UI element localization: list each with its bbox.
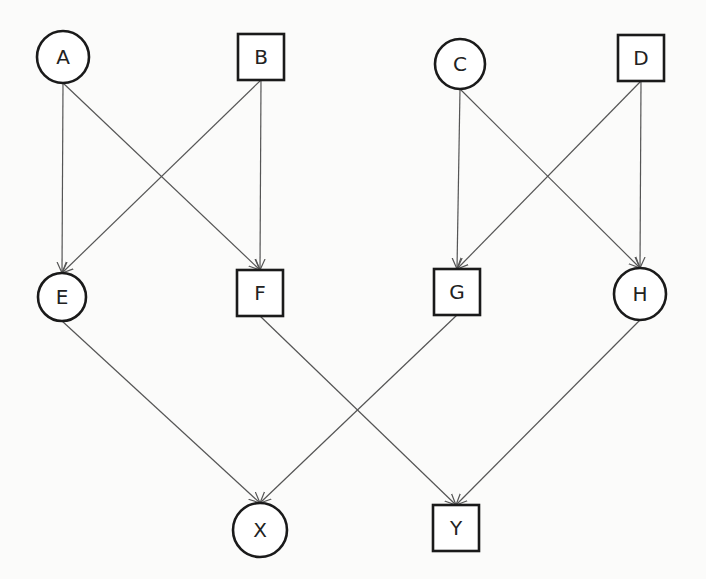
node-label: B bbox=[254, 45, 268, 69]
node-label: E bbox=[56, 285, 69, 309]
node-label: Y bbox=[449, 516, 463, 540]
nodes-layer: ABCDEFGHXY bbox=[37, 31, 666, 557]
node-a: A bbox=[37, 31, 89, 83]
edge-d-to-h bbox=[640, 81, 641, 268]
node-label: A bbox=[56, 45, 70, 69]
node-x: X bbox=[233, 503, 287, 557]
node-label: C bbox=[453, 52, 467, 76]
edges-layer bbox=[62, 80, 641, 505]
node-label: D bbox=[633, 46, 648, 70]
edge-c-to-h bbox=[460, 89, 640, 268]
node-c: C bbox=[435, 39, 485, 89]
diagram-canvas: ABCDEFGHXY bbox=[0, 0, 706, 579]
edge-g-to-x bbox=[260, 315, 457, 503]
edge-a-to-e bbox=[62, 83, 63, 273]
edge-c-to-g bbox=[457, 89, 460, 269]
node-label: H bbox=[632, 282, 647, 306]
node-e: E bbox=[38, 273, 86, 321]
node-label: X bbox=[253, 518, 267, 542]
node-label: G bbox=[449, 280, 465, 304]
node-h: H bbox=[614, 268, 666, 320]
edge-b-to-e bbox=[62, 80, 261, 273]
edge-h-to-y bbox=[456, 320, 640, 505]
edge-b-to-f bbox=[260, 80, 261, 270]
node-y: Y bbox=[433, 505, 479, 551]
edge-e-to-x bbox=[62, 321, 260, 503]
causal-diagram: ABCDEFGHXY bbox=[0, 0, 706, 579]
node-g: G bbox=[434, 269, 480, 315]
node-f: F bbox=[237, 270, 283, 316]
node-d: D bbox=[618, 35, 664, 81]
node-label: F bbox=[254, 281, 266, 305]
node-b: B bbox=[238, 34, 284, 80]
